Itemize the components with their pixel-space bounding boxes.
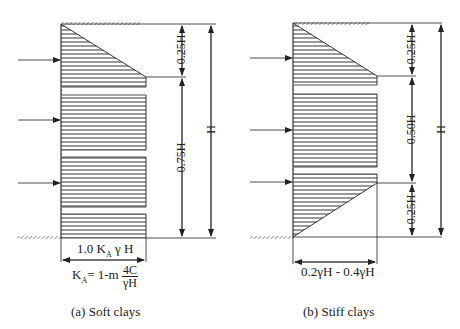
ground-surface-bottom-b [250, 236, 293, 239]
label-0.75H-a: 0.75H [174, 133, 189, 183]
label-H-a: H [204, 105, 219, 155]
label-0.25H-bottom-b: 0.25H [404, 185, 419, 235]
label-0.25H-top-b: 0.25H [404, 25, 419, 75]
label-0.25H-a: 0.25H [174, 25, 189, 75]
ground-surface-top-a [62, 22, 140, 25]
width-label-b: 0.2γH - 0.4γH [301, 264, 375, 280]
label-H-b: H [434, 105, 449, 155]
pressure-diagrams [0, 0, 460, 329]
pressure-distribution-a [61, 24, 146, 238]
label-0.50H-b: 0.50H [404, 105, 419, 155]
ground-surface-bottom-a [17, 236, 61, 239]
ka-formula: KA= 1-m 4CγH [72, 264, 138, 289]
width-label-a: 1.0 KA γ H [77, 241, 133, 259]
pressure-distribution-b [293, 23, 377, 237]
ground-surface-top-b [294, 22, 370, 25]
caption-b: (b) Stiff clays [303, 304, 374, 320]
caption-a: (a) Soft clays [71, 304, 140, 320]
